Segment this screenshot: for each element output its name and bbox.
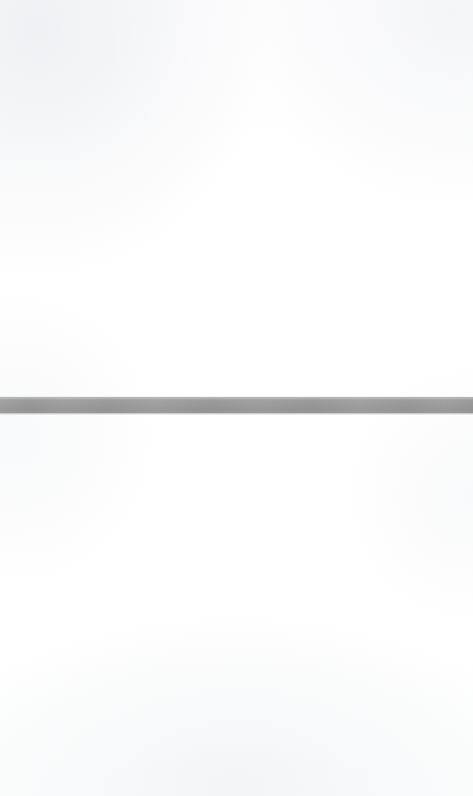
lower-blank-region [0,414,473,796]
horizontal-rule [0,397,473,413]
upper-blank-region [0,0,473,397]
scanned-page: Blank scanned page with a single horizon… [0,0,473,796]
